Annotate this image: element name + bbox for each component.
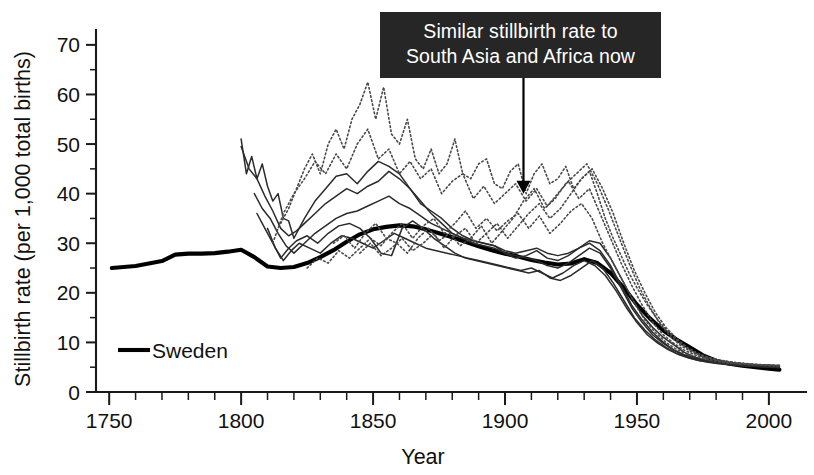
series-country-solid-c xyxy=(254,194,779,367)
y-ticklabel-0: 0 xyxy=(68,381,80,404)
callout-line-2: South Asia and Africa now xyxy=(392,44,649,69)
y-ticklabel-10: 10 xyxy=(57,331,80,354)
chart-figure: 010203040506070175018001850190019502000Y… xyxy=(0,0,814,475)
y-ticklabel-40: 40 xyxy=(57,182,80,205)
y-ticklabel-60: 60 xyxy=(57,83,80,106)
y-ticklabel-30: 30 xyxy=(57,232,80,255)
legend-label-sweden: Sweden xyxy=(152,339,228,362)
series-country-solid-e xyxy=(268,228,780,367)
x-ticklabel-1800: 1800 xyxy=(218,409,265,432)
series-country-solid-d xyxy=(257,213,779,367)
series-country-dotted-e xyxy=(360,169,780,366)
x-axis-title: Year xyxy=(401,445,444,469)
x-ticklabel-1950: 1950 xyxy=(614,409,661,432)
x-ticklabel-1750: 1750 xyxy=(86,409,133,432)
series-country-dotted-b xyxy=(273,129,780,366)
y-ticklabel-20: 20 xyxy=(57,281,80,304)
similar-rate-callout: Similar stillbirth rate to South Asia an… xyxy=(380,12,661,78)
series-layer xyxy=(112,82,780,370)
callout-line-1: Similar stillbirth rate to xyxy=(392,19,649,44)
x-ticklabel-1850: 1850 xyxy=(350,409,397,432)
axes-layer: 010203040506070175018001850190019502000Y… xyxy=(11,30,806,469)
y-axis-title: Stillbirth rate (per 1,000 total births) xyxy=(11,51,35,387)
legend-layer: Sweden xyxy=(118,339,228,362)
y-ticklabel-70: 70 xyxy=(57,33,80,56)
series-country-dotted-a xyxy=(281,82,774,365)
annotation-layer xyxy=(516,78,530,194)
y-ticklabel-50: 50 xyxy=(57,133,80,156)
x-ticklabel-1900: 1900 xyxy=(482,409,529,432)
x-ticklabel-2000: 2000 xyxy=(746,409,793,432)
